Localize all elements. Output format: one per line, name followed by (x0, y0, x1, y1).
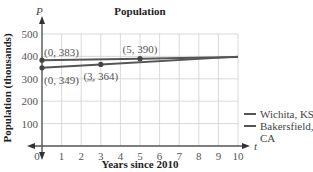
y-axis-label: Population (thousands) (1, 33, 14, 142)
y-axis-arrow-up-icon (39, 16, 45, 24)
x-tick-label: 9 (216, 150, 222, 162)
data-point (39, 58, 44, 63)
y-tick-label: 400 (22, 50, 39, 62)
data-point (137, 56, 142, 61)
y-axis-arrow-down-icon (39, 152, 45, 160)
y-axis-var: P (35, 5, 43, 17)
legend: Wichita, KS Bakersfield, CA (244, 108, 313, 144)
y-tick-label: 300 (22, 73, 39, 85)
data-point (39, 65, 44, 70)
chart-title: Population (114, 5, 165, 17)
population-chart: 012345678910 100200300400500 (0, 383)(5,… (0, 0, 313, 172)
y-tick-label: 200 (22, 95, 39, 107)
data-point (98, 62, 103, 67)
y-tick-labels: 100200300400500 (22, 28, 39, 130)
x-axis-arrow-left-icon (27, 143, 35, 149)
axes (27, 16, 250, 160)
x-tick-label: 0 (34, 150, 40, 162)
y-tick-label: 100 (22, 118, 39, 130)
x-tick-label: 1 (59, 150, 65, 162)
point-annotation: (0, 349) (44, 74, 79, 87)
x-axis-arrow-right-icon (242, 143, 250, 149)
x-tick-label: 8 (196, 150, 202, 162)
legend-label-wichita: Wichita, KS (260, 108, 313, 120)
x-tick-label: 2 (78, 150, 84, 162)
x-axis-var: t (254, 140, 258, 152)
legend-label-bakersfield: Bakersfield, (260, 120, 313, 132)
point-annotation: (5, 390) (123, 43, 158, 56)
point-annotation: (0, 383) (44, 46, 79, 59)
x-tick-label: 10 (233, 150, 245, 162)
point-annotation: (3, 364) (83, 70, 118, 83)
legend-label-bakersfield-line2: CA (260, 132, 275, 144)
y-tick-label: 500 (22, 28, 39, 40)
x-axis-label: Years since 2010 (102, 158, 179, 170)
